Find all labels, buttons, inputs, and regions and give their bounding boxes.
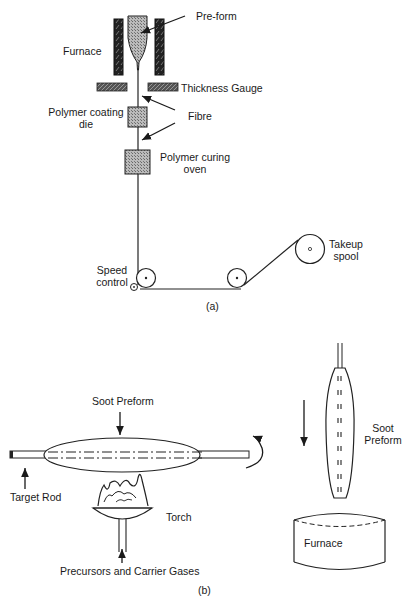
- label-polymer-curing-oven: Polymer curing oven: [155, 151, 235, 175]
- label-target-rod: Target Rod: [10, 491, 61, 503]
- label-preform: Pre-form: [196, 10, 237, 22]
- label-furnace: Furnace: [63, 45, 102, 57]
- caption-b: (b): [198, 584, 211, 596]
- soot-preform-vertical: [326, 368, 354, 498]
- torch: [93, 474, 152, 552]
- thickness-gauge-right: [148, 83, 178, 91]
- thickness-gauge-left: [97, 83, 127, 91]
- label-furnace-b: Furnace: [304, 537, 343, 549]
- preform-shape: [128, 16, 147, 70]
- label-precursors: Precursors and Carrier Gases: [60, 565, 199, 577]
- polymer-coating-die: [128, 107, 147, 127]
- outside-vapour-deposition: [10, 412, 263, 563]
- label-speed-control: Speed control: [92, 264, 132, 288]
- label-fibre: Fibre: [188, 110, 212, 122]
- furnace-left-wall: [114, 19, 123, 75]
- label-polymer-coating-die: Polymer coating die: [44, 106, 128, 130]
- label-torch: Torch: [166, 511, 192, 523]
- sintering-setup: [294, 343, 385, 570]
- label-thickness-gauge: Thickness Gauge: [181, 82, 263, 94]
- label-soot-preform-right: Soot Preform: [361, 422, 405, 446]
- label-soot-preform: Soot Preform: [92, 395, 154, 407]
- label-takeup-spool: Takeup spool: [325, 238, 367, 262]
- polymer-curing-oven: [125, 150, 150, 174]
- soot-preform-horizontal: [44, 438, 200, 472]
- caption-a: (a): [206, 300, 219, 312]
